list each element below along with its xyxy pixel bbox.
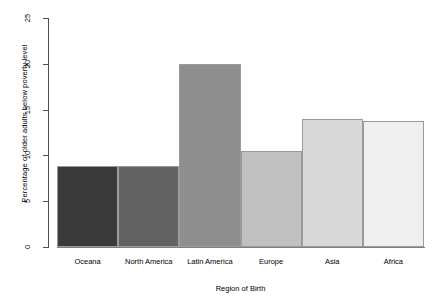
bar: [302, 119, 363, 247]
y-axis-tick: [43, 64, 48, 65]
x-axis-title: Region of Birth: [57, 284, 424, 293]
bar: [57, 166, 118, 247]
y-axis-tick: [43, 201, 48, 202]
y-axis-tick-label: 10: [23, 144, 33, 166]
bar: [363, 121, 424, 247]
y-axis-tick-label: 5: [23, 190, 33, 212]
y-axis-tick-label: 20: [23, 53, 33, 75]
y-axis-tick: [43, 155, 48, 156]
chart-figure: Percentage of older adults below poverty…: [0, 0, 444, 304]
y-axis-tick: [43, 18, 48, 19]
x-axis-line: [57, 247, 425, 248]
bar: [241, 151, 302, 247]
bar: [179, 64, 241, 247]
y-axis-line: [48, 18, 49, 248]
plot-area: [57, 14, 424, 247]
y-axis-tick-label: 25: [23, 7, 33, 29]
y-axis-tick-label: 15: [23, 99, 33, 121]
x-axis-tick-label: Africa: [343, 257, 443, 266]
y-axis-tick: [43, 247, 48, 248]
y-axis-tick-label: 0: [23, 236, 33, 258]
bar: [118, 166, 179, 247]
y-axis-tick: [43, 110, 48, 111]
